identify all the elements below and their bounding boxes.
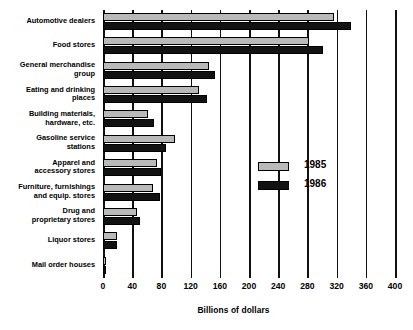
category-label: Liquor stores bbox=[0, 236, 95, 245]
x-axis-title: Billions of dollars bbox=[0, 305, 413, 315]
category-label: Eating and drinkingplaces bbox=[0, 86, 95, 103]
legend-label-1985: 1985 bbox=[304, 159, 326, 170]
bar-1985 bbox=[103, 232, 117, 240]
category-label-line: places bbox=[0, 94, 95, 103]
x-tick-320: 320 bbox=[329, 281, 343, 291]
x-axis-title-text: Billions of dollars bbox=[197, 305, 269, 315]
legend-swatch-1986-icon bbox=[258, 181, 289, 190]
bar-1985 bbox=[103, 62, 209, 70]
category-label-line: Automotive dealers bbox=[0, 17, 95, 26]
bar-1985 bbox=[103, 110, 148, 118]
x-tick-120: 120 bbox=[183, 281, 197, 291]
category-label-line: Mail order houses bbox=[0, 261, 95, 270]
category-label: Automotive dealers bbox=[0, 17, 95, 26]
bar-row bbox=[103, 156, 395, 180]
bar-1986 bbox=[103, 119, 154, 127]
bar-1985 bbox=[103, 208, 137, 216]
bar-row bbox=[103, 132, 395, 156]
category-label: Drug andproprietary stores bbox=[0, 207, 95, 224]
bar-1986 bbox=[103, 95, 207, 103]
x-tick-360: 360 bbox=[359, 281, 373, 291]
category-label: Mail order houses bbox=[0, 261, 95, 270]
category-label-line: Food stores bbox=[0, 41, 95, 50]
x-tick-400: 400 bbox=[388, 281, 402, 291]
bar-1986 bbox=[103, 217, 140, 225]
x-axis-tick-labels: 04080120160200240280320360400 bbox=[0, 281, 413, 295]
plot-area bbox=[103, 10, 395, 278]
legend-swatch-1985-icon bbox=[258, 162, 289, 171]
bar-1986 bbox=[103, 46, 323, 54]
bar-row bbox=[103, 59, 395, 83]
category-label-line: accessory stores bbox=[0, 167, 95, 176]
bar-row bbox=[103, 181, 395, 205]
bar-row bbox=[103, 34, 395, 58]
bar-row bbox=[103, 83, 395, 107]
x-tick-40: 40 bbox=[127, 281, 137, 291]
bar-1986 bbox=[103, 168, 161, 176]
bar-row bbox=[103, 229, 395, 253]
category-axis-labels: Automotive dealersFood storesGeneral mer… bbox=[0, 10, 99, 278]
bar-1986 bbox=[103, 71, 215, 79]
bar-rows bbox=[103, 10, 395, 278]
bar-1985 bbox=[103, 257, 106, 265]
bar-row bbox=[103, 254, 395, 278]
bar-1986 bbox=[103, 266, 106, 274]
x-tick-240: 240 bbox=[271, 281, 285, 291]
bar-1986 bbox=[103, 241, 117, 249]
bar-row bbox=[103, 205, 395, 229]
bar-1985 bbox=[103, 135, 175, 143]
gridline-400 bbox=[395, 10, 397, 278]
x-tick-80: 80 bbox=[157, 281, 167, 291]
x-tick-280: 280 bbox=[300, 281, 314, 291]
category-label: Apparel andaccessory stores bbox=[0, 159, 95, 176]
bar-chart: Automotive dealersFood storesGeneral mer… bbox=[0, 0, 413, 330]
category-label: Food stores bbox=[0, 41, 95, 50]
bar-1986 bbox=[103, 144, 166, 152]
bar-1985 bbox=[103, 37, 309, 45]
x-tick-0: 0 bbox=[101, 281, 106, 291]
legend-label-1986: 1986 bbox=[304, 178, 326, 189]
category-label: General merchandisegroup bbox=[0, 61, 95, 78]
category-label-line: stations bbox=[0, 143, 95, 152]
bar-1985 bbox=[103, 159, 157, 167]
bar-1985 bbox=[103, 86, 199, 94]
x-tick-160: 160 bbox=[213, 281, 227, 291]
category-label-line: hardware, etc. bbox=[0, 119, 95, 128]
bar-1986 bbox=[103, 22, 351, 30]
bar-row bbox=[103, 10, 395, 34]
x-tick-200: 200 bbox=[242, 281, 256, 291]
bar-1985 bbox=[103, 13, 334, 21]
bar-1986 bbox=[103, 193, 160, 201]
category-label-line: group bbox=[0, 70, 95, 79]
category-label: Building materials,hardware, etc. bbox=[0, 110, 95, 127]
category-label: Furniture, furnishingsand equip. stores bbox=[0, 183, 95, 200]
bar-row bbox=[103, 107, 395, 131]
category-label-line: Liquor stores bbox=[0, 236, 95, 245]
category-label-line: and equip. stores bbox=[0, 192, 95, 201]
category-label: Gasoline servicestations bbox=[0, 134, 95, 151]
category-label-line: proprietary stores bbox=[0, 216, 95, 225]
bar-1985 bbox=[103, 184, 153, 192]
